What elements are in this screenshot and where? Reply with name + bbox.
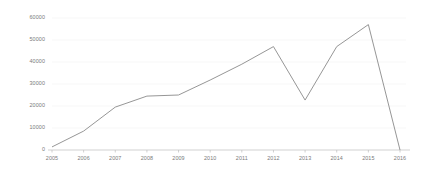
x-axis-tick-label: 2009 — [164, 156, 194, 161]
gridlines — [52, 18, 406, 128]
x-axis-tick-label: 2006 — [69, 156, 99, 161]
y-axis-tick-label: 50000 — [30, 37, 46, 42]
data-series-line — [52, 25, 400, 150]
y-axis-tick-label: 30000 — [30, 81, 46, 86]
y-axis-tick-label: 40000 — [30, 59, 46, 64]
line-chart: 6000050000400003000020000100000 20052006… — [0, 0, 431, 176]
x-axis-tick-label: 2007 — [100, 156, 130, 161]
x-axis-tick-label: 2008 — [132, 156, 162, 161]
x-axis-tick-label: 2011 — [227, 156, 257, 161]
x-axis-tick-label: 2014 — [322, 156, 352, 161]
x-axis-tick-label: 2016 — [385, 156, 415, 161]
x-axis-tick-label: 2005 — [37, 156, 67, 161]
x-tick-marks — [52, 150, 400, 153]
x-axis-tick-label: 2013 — [290, 156, 320, 161]
x-axis-tick-label: 2012 — [258, 156, 288, 161]
x-axis-tick-label: 2010 — [195, 156, 225, 161]
chart-canvas — [0, 0, 431, 176]
y-axis-tick-label: 0 — [42, 147, 45, 152]
series-line — [52, 25, 400, 150]
x-axis-tick-label: 2015 — [353, 156, 383, 161]
y-axis-tick-label: 10000 — [30, 125, 46, 130]
y-axis-tick-label: 60000 — [30, 15, 46, 20]
y-axis-tick-label: 20000 — [30, 103, 46, 108]
